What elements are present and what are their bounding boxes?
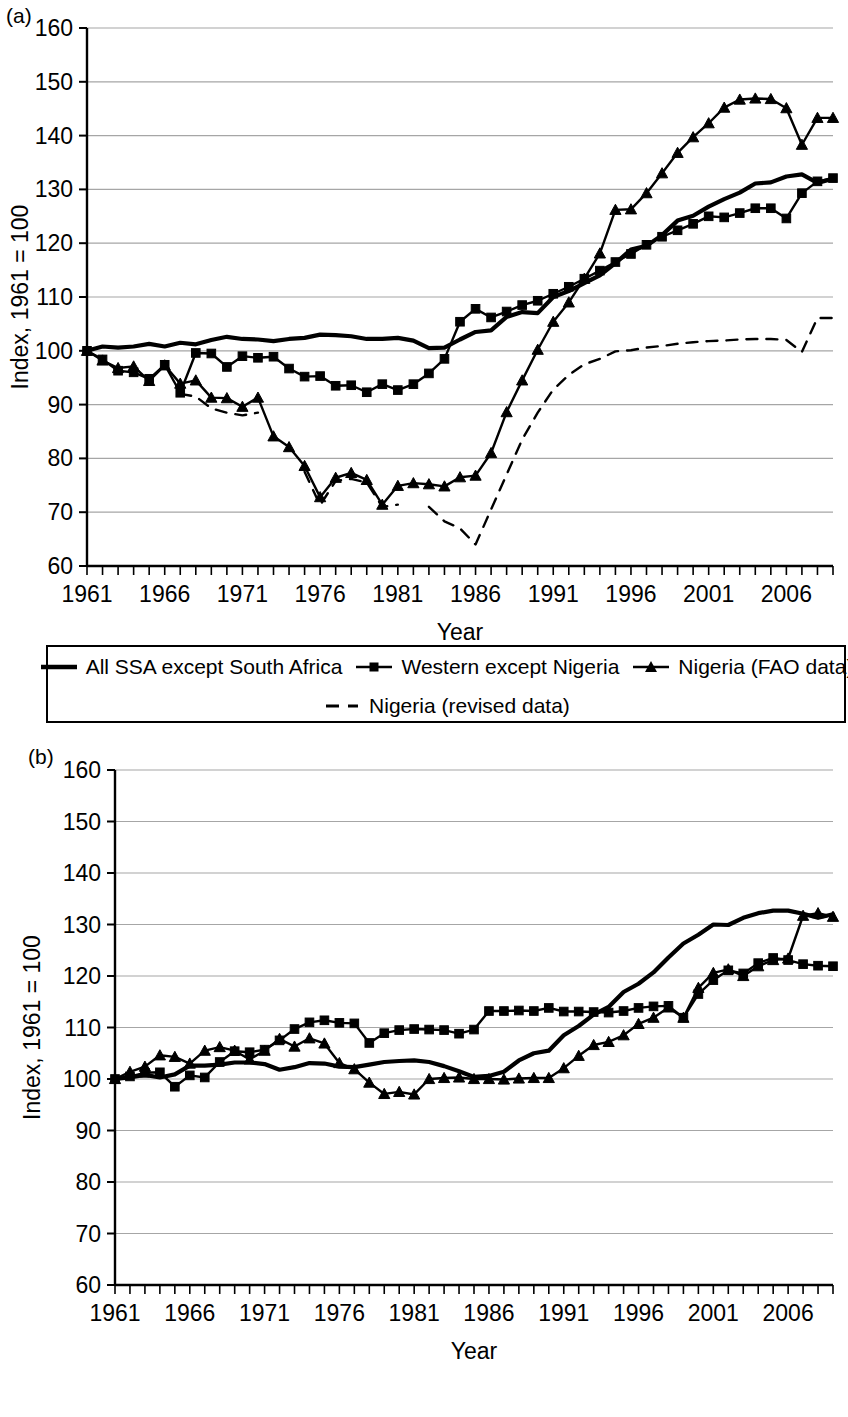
x-axis-tick-label: 1971	[239, 1300, 290, 1326]
x-axis-tick-label: 1966	[139, 581, 190, 607]
data-point-marker	[829, 174, 838, 183]
data-point-marker	[440, 355, 449, 364]
series-line	[429, 318, 833, 544]
data-point-marker	[796, 139, 807, 149]
legend-swatch-square-icon	[354, 657, 394, 677]
data-point-marker	[254, 353, 263, 362]
data-point-marker	[290, 1025, 299, 1034]
data-point-marker	[485, 1007, 494, 1016]
legend-label: Nigeria (FAO data)	[678, 656, 848, 677]
legend-a-entry[interactable]: Nigeria (FAO data)	[625, 656, 848, 677]
x-axis-title: Year	[437, 619, 484, 645]
series-0	[115, 911, 833, 1079]
data-point-marker	[365, 1039, 374, 1048]
data-point-marker	[335, 1019, 344, 1028]
x-axis-tick-label: 1961	[61, 581, 112, 607]
y-axis-tick-label: 100	[63, 1066, 101, 1092]
data-point-marker	[619, 1007, 628, 1016]
y-axis-tick-label: 70	[75, 1221, 101, 1247]
series-line	[87, 98, 833, 504]
data-point-marker	[559, 1007, 568, 1016]
data-point-marker	[380, 1029, 389, 1038]
x-axis-tick-label: 1966	[164, 1300, 215, 1326]
x-axis-tick-label: 2001	[688, 1300, 739, 1326]
data-point-marker	[604, 1008, 613, 1017]
data-point-marker	[517, 375, 528, 385]
data-point-marker	[425, 369, 434, 378]
chart-plot-b: 6070809010011012013014015016019611966197…	[0, 740, 848, 1380]
data-point-marker	[813, 177, 822, 186]
data-point-marker	[501, 407, 512, 417]
data-point-marker	[350, 1019, 359, 1028]
data-point-marker	[289, 1041, 300, 1051]
data-point-marker	[518, 301, 527, 310]
y-axis-tick-label: 90	[47, 392, 73, 418]
x-axis-tick-label: 1996	[605, 581, 656, 607]
legend-a-entry[interactable]: All SSA except South Africa	[33, 656, 349, 677]
data-point-marker	[487, 313, 496, 322]
data-point-marker	[720, 213, 729, 222]
x-axis-tick-label: 1976	[295, 581, 346, 607]
data-point-marker	[378, 380, 387, 389]
data-point-marker	[751, 204, 760, 213]
figure-panel-a: (a) 607080901001101201301401501601961196…	[0, 0, 848, 740]
data-point-marker	[223, 363, 232, 372]
gridlines	[87, 28, 833, 512]
data-point-marker	[425, 1025, 434, 1034]
data-point-marker	[185, 1071, 194, 1080]
data-point-marker	[589, 1008, 598, 1017]
data-point-marker	[207, 349, 216, 358]
legend-a-row-1: Nigeria (revised data)	[48, 686, 844, 725]
legend-a-entry[interactable]: Western except Nigeria	[348, 656, 625, 677]
data-point-marker	[658, 232, 667, 241]
legend-label: Nigeria (revised data)	[369, 695, 570, 716]
x-axis: 1961196619711976198119861991199620012006	[61, 566, 833, 607]
data-point-marker	[285, 364, 294, 373]
svg-text:Index, 1961 = 100: Index, 1961 = 100	[7, 205, 33, 390]
data-point-marker	[409, 380, 418, 389]
data-point-marker	[782, 214, 791, 223]
y-axis-tick-label: 60	[75, 1272, 101, 1298]
x-axis-tick-label: 1981	[389, 1300, 440, 1326]
data-point-marker	[156, 1068, 165, 1077]
y-axis-title: Index, 1961 = 100	[7, 205, 33, 390]
x-axis-tick-label: 1971	[217, 581, 268, 607]
series-2	[81, 93, 838, 509]
data-point-marker	[814, 961, 823, 970]
legend-a-entry[interactable]: Nigeria (revised data)	[316, 695, 576, 716]
data-point-marker	[673, 226, 682, 235]
data-point-marker	[532, 344, 543, 354]
y-axis-tick-label: 140	[63, 860, 101, 886]
data-point-marker	[410, 1025, 419, 1034]
data-point-marker	[362, 388, 371, 397]
x-axis-tick-label: 1991	[538, 1300, 589, 1326]
data-point-marker	[456, 317, 465, 326]
data-point-marker	[305, 1018, 314, 1027]
y-axis-tick-label: 120	[35, 230, 73, 256]
y-axis-tick-label: 100	[35, 338, 73, 364]
x-axis-tick-label: 1976	[314, 1300, 365, 1326]
data-point-marker	[191, 349, 200, 358]
y-axis-title: Index, 1961 = 100	[19, 935, 45, 1120]
data-point-marker	[719, 102, 730, 112]
legend-panel-a: All SSA except South AfricaWestern excep…	[46, 645, 846, 723]
legend-label: Western except Nigeria	[401, 656, 619, 677]
data-point-marker	[533, 296, 542, 305]
y-axis-tick-label: 110	[36, 284, 73, 310]
x-axis-tick-label: 1981	[372, 581, 423, 607]
data-point-marker	[269, 352, 278, 361]
y-axis-tick-label: 70	[47, 499, 73, 525]
series-line	[115, 913, 833, 1094]
x-axis-tick-label: 1961	[89, 1300, 140, 1326]
data-point-marker	[471, 305, 480, 314]
series-2	[109, 908, 838, 1099]
data-point-marker	[549, 289, 558, 298]
data-point-marker	[238, 352, 247, 361]
figure-panel-b: (b) 607080901001101201301401501601961196…	[0, 740, 848, 1417]
data-point-marker	[320, 1016, 329, 1025]
data-point-marker	[515, 1006, 524, 1015]
x-axis: 1961196619711976198119861991199620012006	[89, 1285, 833, 1326]
y-axis: 60708090100110120130140150160	[63, 757, 115, 1298]
data-point-marker	[455, 1029, 464, 1038]
data-point-marker	[649, 1002, 658, 1011]
